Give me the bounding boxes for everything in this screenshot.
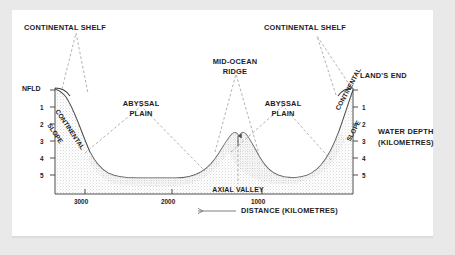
label-axial-valley: AXIAL VALLEY: [206, 186, 270, 193]
y-tick-right-3: 3: [362, 138, 366, 145]
label-abyssal-plain-left-line2: PLAIN: [102, 110, 180, 118]
y-tick-left-4: 4: [40, 155, 44, 162]
y-axis-title-line2: (KILOMETRES): [378, 139, 434, 147]
label-continental-shelf-right: CONTINENTAL SHELF: [264, 24, 346, 32]
y-tick-left-2: 2: [40, 121, 44, 128]
y-tick-right-5: 5: [362, 172, 366, 179]
label-abyssal-plain-right-line2: PLAIN: [244, 110, 322, 118]
y-axis-title-line1: WATER DEPTH: [378, 128, 433, 136]
label-continental-shelf-left: CONTINENTAL SHELF: [24, 24, 106, 32]
figure-root: CONTINENTAL SHELF CONTINENTAL SHELF MID-…: [0, 0, 455, 255]
x-tick-1000: 1000: [251, 198, 265, 205]
y-tick-left-3: 3: [40, 138, 44, 145]
label-abyssal-plain-right-line1: ABYSSAL: [244, 100, 322, 108]
y-tick-right-2: 2: [362, 121, 366, 128]
label-mid-ocean-ridge-line2: RIDGE: [185, 68, 285, 76]
label-lands-end: LAND'S END: [360, 72, 407, 80]
y-tick-left-1: 1: [40, 104, 44, 111]
x-axis-title: DISTANCE (KILOMETRES): [241, 207, 338, 215]
y-tick-left-5: 5: [40, 172, 44, 179]
label-mid-ocean-ridge-line1: MID-OCEAN: [185, 58, 285, 66]
label-nfld: NFLD: [22, 85, 41, 92]
x-tick-3000: 3000: [74, 198, 88, 205]
x-tick-2000: 2000: [161, 198, 175, 205]
y-tick-right-4: 4: [362, 155, 366, 162]
y-tick-right-1: 1: [362, 104, 366, 111]
label-abyssal-plain-left-line1: ABYSSAL: [102, 100, 180, 108]
